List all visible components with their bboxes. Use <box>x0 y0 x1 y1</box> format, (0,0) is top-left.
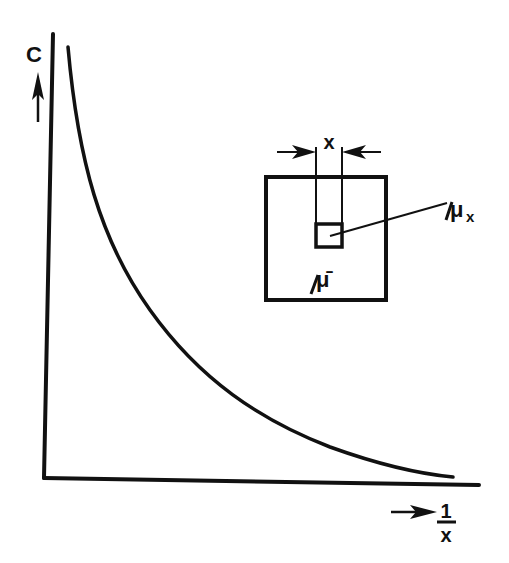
sub-region-label: μ x <box>446 197 475 225</box>
x-axis-label-numerator: 1 <box>440 500 451 522</box>
y-axis-label: C <box>26 42 42 67</box>
sub-region-leader-line <box>330 203 447 236</box>
y-axis <box>44 34 53 478</box>
svg-text:μ̄: μ̄ <box>316 267 333 292</box>
dimension-label: x <box>323 131 334 153</box>
x-axis-label-denominator: x <box>440 524 451 546</box>
dimension-arrow-right-icon <box>342 145 381 159</box>
x-axis <box>44 478 479 485</box>
right-arrow-icon <box>391 505 437 519</box>
svg-text:μ: μ <box>450 197 463 222</box>
up-arrow-icon <box>32 72 44 122</box>
inset-sub-region <box>316 224 342 247</box>
region-label: μ̄ <box>311 267 333 294</box>
decay-curve <box>68 47 453 477</box>
diagram-canvas: C 1 x x μ x <box>0 0 509 563</box>
inset-diagram: x μ x μ̄ <box>266 131 475 300</box>
svg-text:x: x <box>466 208 475 225</box>
dimension-arrow-left-icon <box>277 145 316 159</box>
